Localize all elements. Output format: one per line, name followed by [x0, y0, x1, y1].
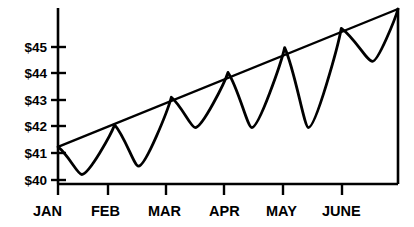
x-tick-label-may: MAY: [266, 203, 297, 219]
x-tick-label-june: JUNE: [322, 203, 361, 219]
x-tick-label-feb: FEB: [91, 203, 120, 219]
y-tick-label-41: $41: [24, 146, 47, 161]
y-tick-label-45: $45: [24, 40, 47, 55]
price-curve-line: [58, 9, 398, 174]
y-tick-label-44: $44: [24, 66, 47, 81]
x-tick-label-jan: JAN: [33, 203, 62, 219]
y-tick-labels: $40 $41 $42 $43 $44 $45: [24, 40, 47, 188]
x-tick-marks: [58, 184, 342, 195]
x-tick-label-mar: MAR: [148, 203, 182, 219]
y-tick-label-42: $42: [24, 119, 47, 134]
chart-canvas: $40 $41 $42 $43 $44 $45 JAN FEB MAR APR …: [0, 0, 414, 227]
x-tick-labels: JAN FEB MAR APR MAY JUNE: [33, 203, 361, 219]
y-tick-label-40: $40: [24, 173, 47, 188]
y-tick-label-43: $43: [24, 93, 47, 108]
trend-line: [58, 9, 398, 147]
sawtooth-price-chart: $40 $41 $42 $43 $44 $45 JAN FEB MAR APR …: [0, 0, 414, 227]
x-tick-label-apr: APR: [209, 203, 240, 219]
